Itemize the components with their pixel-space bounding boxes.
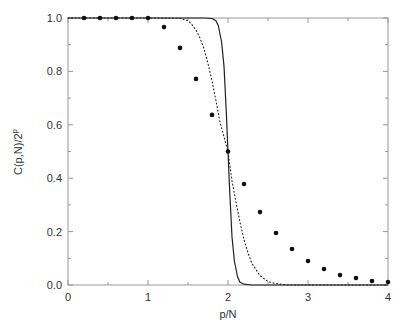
- data-point: [98, 16, 103, 21]
- data-point: [114, 16, 119, 21]
- data-point: [162, 25, 167, 30]
- data-point: [178, 46, 183, 51]
- y-tick-label: 0.8: [47, 65, 62, 77]
- x-axis-label: p/N: [219, 308, 236, 320]
- y-axis-label-superscript: p: [10, 128, 19, 133]
- data-point: [274, 231, 279, 236]
- x-tick-label: 4: [385, 291, 391, 303]
- y-axis-label: C(p,N)/2p: [10, 128, 24, 175]
- tick-labels: 012340.00.20.40.60.81.0: [47, 12, 391, 303]
- data-point: [370, 279, 375, 284]
- y-tick-label: 1.0: [47, 12, 62, 24]
- data-point: [306, 259, 311, 264]
- chart: 012340.00.20.40.60.81.0 p/N C(p,N)/2p: [0, 0, 400, 325]
- y-tick-label: 0.2: [47, 226, 62, 238]
- x-tick-label: 3: [305, 291, 311, 303]
- y-tick-label: 0.4: [47, 172, 62, 184]
- y-tick-label: 0.6: [47, 119, 62, 131]
- data-point: [226, 149, 231, 154]
- data-point: [322, 267, 327, 272]
- x-tick-label: 0: [65, 291, 71, 303]
- data-point: [258, 210, 263, 215]
- data-point: [338, 273, 343, 278]
- data-point: [242, 182, 247, 187]
- data-point: [146, 16, 151, 21]
- data-point: [290, 247, 295, 252]
- data-point: [210, 113, 215, 118]
- data-point: [194, 77, 199, 82]
- x-tick-label: 1: [145, 291, 151, 303]
- data-point: [82, 16, 87, 21]
- data-point: [354, 276, 359, 281]
- data-point: [386, 280, 391, 285]
- series-layer: [68, 16, 390, 285]
- data-point: [130, 16, 135, 21]
- series-markers: [82, 16, 391, 285]
- y-tick-label: 0.0: [47, 279, 62, 291]
- y-axis-label-base: C(p,N)/2: [12, 133, 24, 175]
- x-tick-label: 2: [225, 291, 231, 303]
